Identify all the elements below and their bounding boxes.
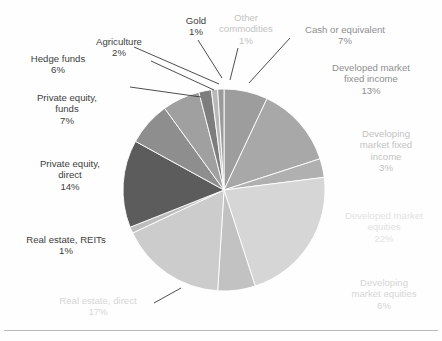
slice-label-developing-market-fixed-income-line3: income — [340, 151, 432, 162]
slice-label-developed-market-fixed-income: Developed market fixed income 13% — [315, 62, 427, 96]
slice-label-private-equity-direct-line1: Private equity, — [40, 158, 100, 169]
slice-label-developing-market-equities-line2: market equities — [332, 288, 436, 299]
slice-label-private-equity-funds: Private equity, funds 7% — [15, 92, 119, 126]
slice-label-real-estate-direct-pct: 17% — [42, 306, 154, 317]
figure-caption-strip — [4, 336, 438, 341]
pie-chart-figure: Gold 1% Other commodities 1% Cash or equ… — [0, 0, 442, 341]
slice-label-developed-market-equities: Developed market equities 22% — [328, 210, 440, 244]
slice-label-developed-market-equities-pct: 22% — [328, 233, 440, 244]
slice-label-private-equity-funds-line1: Private equity, — [37, 92, 97, 103]
slice-label-developing-market-fixed-income-line1: Developing — [362, 128, 410, 139]
slice-label-hedge-funds-pct: 6% — [16, 64, 100, 75]
slice-label-other-commodities-line2: commodities — [210, 23, 282, 34]
leader-line-real-estate-direct — [154, 288, 181, 303]
leader-line-other-commodities — [230, 48, 238, 80]
slice-label-real-estate-direct-line1: Real estate, direct — [59, 295, 136, 306]
slice-label-real-estate-reits-pct: 1% — [10, 245, 122, 256]
slice-label-developing-market-fixed-income-pct: 3% — [340, 162, 432, 173]
slice-label-private-equity-direct-pct: 14% — [18, 181, 122, 192]
slice-label-agriculture-pct: 2% — [79, 47, 159, 58]
slice-label-developed-market-fixed-income-line1: Developed market — [332, 62, 410, 73]
leader-line-private-equity-funds — [130, 87, 201, 97]
slice-label-cash-or-equivalent: Cash or equivalent 7% — [290, 24, 400, 47]
figure-bottom-rule — [4, 330, 438, 331]
pie-slice-group — [123, 89, 325, 291]
slice-label-private-equity-direct-line2: direct — [18, 169, 122, 180]
slice-label-other-commodities-line1: Other — [234, 12, 258, 23]
leader-line-hedge-funds — [151, 61, 214, 90]
slice-label-developed-market-equities-line2: equities — [328, 221, 440, 232]
slice-label-developing-market-fixed-income-line2: market fixed — [340, 139, 432, 150]
slice-label-developed-market-fixed-income-pct: 13% — [315, 85, 427, 96]
slice-label-other-commodities: Other commodities 1% — [210, 12, 282, 46]
slice-label-private-equity-funds-line2: funds — [15, 103, 119, 114]
slice-label-cash-or-equivalent-pct: 7% — [290, 35, 400, 46]
slice-label-developed-market-fixed-income-line2: fixed income — [315, 73, 427, 84]
slice-label-gold-line1: Gold — [186, 15, 206, 26]
slice-label-real-estate-reits: Real estate, REITs 1% — [10, 234, 122, 257]
slice-label-agriculture: Agriculture 2% — [79, 36, 159, 59]
slice-label-developing-market-equities: Developing market equities 6% — [332, 277, 436, 311]
slice-label-agriculture-line1: Agriculture — [96, 36, 142, 47]
slice-label-private-equity-direct: Private equity, direct 14% — [18, 158, 122, 192]
slice-label-real-estate-reits-line1: Real estate, REITs — [26, 234, 105, 245]
slice-label-developing-market-equities-line1: Developing — [360, 277, 408, 288]
slice-label-developing-market-fixed-income: Developing market fixed income 3% — [340, 128, 432, 173]
slice-label-cash-or-equivalent-line1: Cash or equivalent — [305, 24, 385, 35]
slice-label-developing-market-equities-pct: 6% — [332, 300, 436, 311]
slice-label-hedge-funds-line1: Hedge funds — [31, 53, 85, 64]
slice-label-other-commodities-pct: 1% — [210, 35, 282, 46]
slice-label-private-equity-funds-pct: 7% — [15, 115, 119, 126]
slice-label-real-estate-direct: Real estate, direct 17% — [42, 295, 154, 318]
slice-label-developed-market-equities-line1: Developed market — [345, 210, 423, 221]
